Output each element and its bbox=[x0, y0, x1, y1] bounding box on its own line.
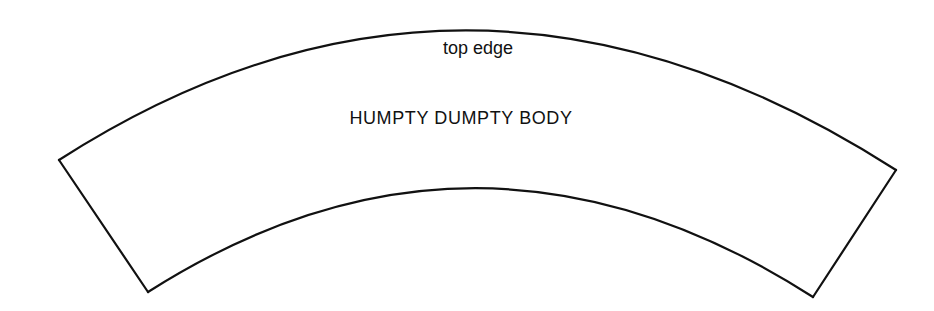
inner-arc bbox=[148, 188, 813, 297]
body-title-label: HUMPTY DUMPTY BODY bbox=[349, 108, 572, 128]
left-edge bbox=[59, 160, 148, 292]
humpty-dumpty-body-diagram: top edge HUMPTY DUMPTY BODY bbox=[0, 0, 934, 311]
annular-sector-outline bbox=[59, 30, 896, 297]
top-edge-label: top edge bbox=[443, 38, 513, 58]
right-edge bbox=[813, 170, 896, 297]
